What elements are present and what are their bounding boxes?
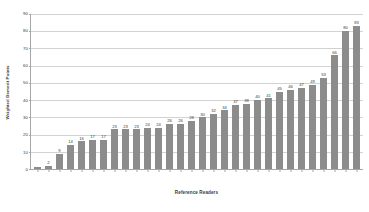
bar-value-label: 17	[101, 135, 106, 139]
x-axis-tick-mark	[147, 169, 148, 172]
bar-value-label: 38	[244, 99, 249, 103]
x-axis-tick-mark	[48, 169, 49, 172]
bar[interactable]: 41	[265, 98, 272, 169]
bar-value-label: 9	[58, 149, 60, 153]
bars-layer: 2914161717232323242426262830323437384041…	[31, 14, 363, 169]
y-axis-tick-label: 20	[23, 133, 28, 137]
bar-slot: 66	[329, 14, 340, 169]
bar-value-label: 24	[145, 123, 150, 127]
y-axis-tick-label: 80	[23, 29, 28, 33]
bar[interactable]: 30	[199, 117, 206, 169]
bar[interactable]: 17	[89, 140, 96, 169]
bar-value-label: 47	[299, 83, 304, 87]
y-axis-tick-label: 90	[23, 12, 28, 16]
bar-value-label: 49	[310, 80, 315, 84]
bar-value-label: 83	[354, 21, 359, 25]
bar[interactable]: 24	[144, 128, 151, 169]
y-axis-tick-label: 30	[23, 116, 28, 120]
y-axis-tick-label: 50	[23, 81, 28, 85]
x-axis-tick-mark	[136, 169, 137, 172]
x-axis-tick-mark	[213, 169, 214, 172]
bar-slot: 47	[296, 14, 307, 169]
bar[interactable]: 16	[78, 141, 85, 169]
bar-value-label: 30	[200, 113, 205, 117]
bar[interactable]: 40	[254, 100, 261, 169]
x-axis-tick-mark	[323, 169, 324, 172]
bar[interactable]: 17	[100, 140, 107, 169]
x-axis-tick-mark	[246, 169, 247, 172]
bar[interactable]: 26	[166, 124, 173, 169]
bar-value-label: 26	[167, 119, 172, 123]
bar-slot: 24	[142, 14, 153, 169]
x-axis-tick-mark	[268, 169, 269, 172]
bar-value-label: 37	[233, 100, 238, 104]
bar[interactable]: 53	[320, 78, 327, 169]
bar-value-label: 26	[178, 119, 183, 123]
bar-slot: 28	[186, 14, 197, 169]
bar-value-label: 66	[332, 51, 337, 55]
bar-slot: 14	[65, 14, 76, 169]
bar-slot: 49	[307, 14, 318, 169]
bar-value-label: 53	[321, 73, 326, 77]
x-axis-tick-mark	[169, 169, 170, 172]
bar[interactable]: 32	[210, 114, 217, 169]
bar-slot: 32	[208, 14, 219, 169]
bar-slot: 23	[120, 14, 131, 169]
bar[interactable]: 26	[177, 124, 184, 169]
bar-slot: 37	[230, 14, 241, 169]
bar[interactable]: 47	[298, 88, 305, 169]
bar[interactable]	[34, 167, 41, 169]
bar-slot: 17	[87, 14, 98, 169]
bar-slot: 30	[197, 14, 208, 169]
x-axis-tick-mark	[92, 169, 93, 172]
bar[interactable]: 23	[111, 129, 118, 169]
bar-chart: Weighted Demerit Points 0102030405060708…	[0, 0, 369, 212]
bar[interactable]: 2	[45, 166, 52, 169]
bar[interactable]: 9	[56, 154, 63, 170]
x-axis-tick-mark	[59, 169, 60, 172]
bar-slot: 23	[109, 14, 120, 169]
y-axis-tick-label: 40	[23, 98, 28, 102]
bar[interactable]: 28	[188, 121, 195, 169]
bar-slot: 9	[54, 14, 65, 169]
bar-value-label: 23	[123, 125, 128, 129]
x-axis-tick-mark	[103, 169, 104, 172]
bar[interactable]: 23	[122, 129, 129, 169]
bar-value-label: 40	[255, 95, 260, 99]
bar-slot: 40	[252, 14, 263, 169]
x-axis-tick-mark	[257, 169, 258, 172]
bar-slot: 34	[219, 14, 230, 169]
y-axis-title: Weighted Demerit Points	[0, 0, 14, 185]
bar[interactable]: 45	[276, 92, 283, 170]
bar-value-label: 2	[47, 161, 49, 165]
bar[interactable]: 49	[309, 85, 316, 169]
bar-value-label: 17	[90, 135, 95, 139]
bar[interactable]: 66	[331, 55, 338, 169]
bar[interactable]: 34	[221, 110, 228, 169]
x-axis-tick-mark	[345, 169, 346, 172]
x-axis-tick-mark	[235, 169, 236, 172]
bar-value-label: 28	[189, 116, 194, 120]
bar-slot: 23	[131, 14, 142, 169]
bar[interactable]: 24	[155, 128, 162, 169]
bar-value-label: 16	[79, 137, 84, 141]
x-axis-tick-mark	[37, 169, 38, 172]
bar[interactable]: 23	[133, 129, 140, 169]
x-axis-tick-mark	[114, 169, 115, 172]
bar[interactable]: 46	[287, 90, 294, 169]
bar-slot: 41	[263, 14, 274, 169]
x-axis-tick-mark	[81, 169, 82, 172]
bar[interactable]: 83	[353, 26, 360, 169]
bar[interactable]: 80	[342, 31, 349, 169]
plot-area: 2914161717232323242426262830323437384041…	[30, 14, 363, 170]
bar[interactable]: 37	[232, 105, 239, 169]
bar-value-label: 41	[266, 94, 271, 98]
x-axis-title: Reference Readers	[30, 190, 363, 195]
y-axis-tick-label: 60	[23, 64, 28, 68]
bar-slot	[32, 14, 43, 169]
y-axis-tick-labels: 0102030405060708090	[14, 14, 30, 170]
y-axis-tick-label: 10	[23, 150, 28, 154]
bar[interactable]: 38	[243, 104, 250, 169]
bar-slot: 17	[98, 14, 109, 169]
bar[interactable]: 14	[67, 145, 74, 169]
